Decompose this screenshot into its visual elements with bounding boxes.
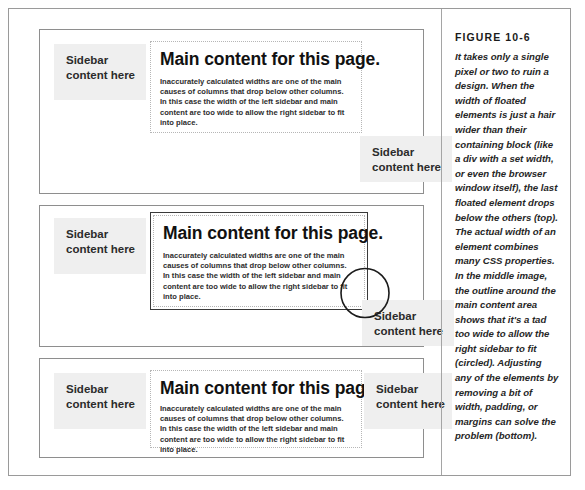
main-paragraph-bottom: Inaccurately calculated widths are one o… — [160, 404, 352, 455]
left-sidebar-top: Sidebarcontent here — [54, 44, 146, 100]
main-paragraph-top: Inaccurately calculated widths are one o… — [160, 77, 352, 128]
right-sidebar-top-dropped: Sidebarcontent here — [360, 136, 452, 182]
browser-mockup-top: Sidebarcontent here Main content for thi… — [39, 29, 424, 194]
caption-divider — [441, 9, 442, 475]
main-heading-bottom: Main content for this page. — [160, 378, 352, 399]
right-sidebar-bottom: Sidebarcontent here — [364, 373, 452, 429]
main-content-middle-outlined: Main content for this page. Inaccurately… — [153, 215, 365, 307]
figure-caption-area: FIGURE 10-6 It takes only a single pixel… — [455, 31, 559, 444]
main-heading-middle: Main content for this page. — [163, 223, 355, 244]
main-paragraph-middle: Inaccurately calculated widths are one o… — [163, 251, 355, 302]
main-heading-top: Main content for this page. — [160, 49, 352, 70]
main-content-bottom: Main content for this page. Inaccurately… — [150, 370, 362, 448]
browser-mockup-bottom: Sidebarcontent here Main content for thi… — [39, 358, 424, 458]
main-content-top: Main content for this page. Inaccurately… — [150, 41, 362, 133]
figure-label: FIGURE 10-6 — [455, 31, 559, 43]
figure-caption-text: It takes only a single pixel or two to r… — [455, 50, 559, 444]
left-sidebar-bottom: Sidebarcontent here — [54, 373, 146, 429]
browser-mockup-middle: Sidebarcontent here Main content for thi… — [39, 205, 424, 347]
figure-container: Sidebarcontent here Main content for thi… — [8, 8, 571, 476]
figure-artwork-area: Sidebarcontent here Main content for thi… — [9, 9, 441, 475]
left-sidebar-middle: Sidebarcontent here — [54, 218, 146, 274]
